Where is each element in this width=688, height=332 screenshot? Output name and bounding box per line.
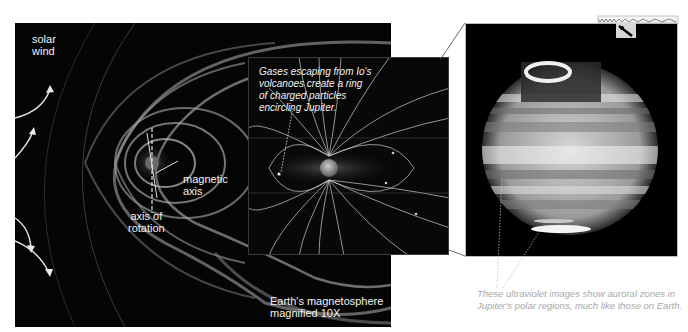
earth-magnetosphere-caption: Earth's magnetosphere magnified 10X xyxy=(270,295,383,319)
south-aurora xyxy=(531,225,591,233)
auroral-zones-caption: These ultraviolet images show auroral zo… xyxy=(477,288,682,312)
jupiter-uv-image xyxy=(466,24,678,257)
magnetic-axis-label: magnetic axis xyxy=(183,173,228,197)
axis-of-rotation-label: axis of rotation xyxy=(128,210,165,234)
io-torus-inset: Gases escaping from Io's volcanoes creat… xyxy=(248,57,449,255)
solar-wind-label: solar wind xyxy=(32,33,56,57)
io-torus-caption: Gases escaping from Io's volcanoes creat… xyxy=(259,66,372,114)
spectrum-indicator: UV VIS xyxy=(465,23,678,41)
jupiter-uv-image-panel: UV VIS xyxy=(465,23,678,257)
